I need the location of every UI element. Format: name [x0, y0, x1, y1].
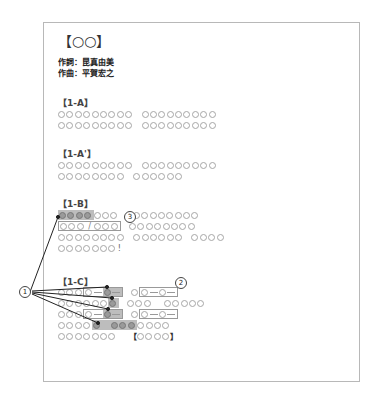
marker-3-icon: 3 [124, 211, 136, 223]
marker-1-icon: 1 [19, 286, 31, 298]
marker-2-icon: 2 [175, 277, 187, 289]
annotation-leader-lines [0, 0, 380, 402]
